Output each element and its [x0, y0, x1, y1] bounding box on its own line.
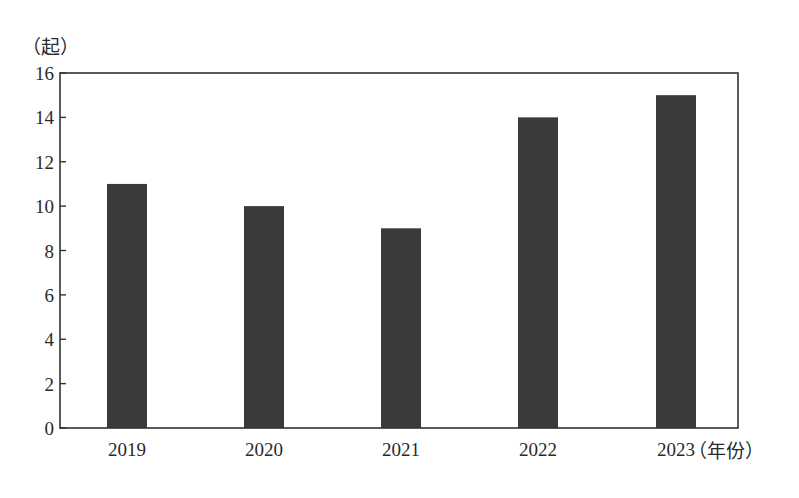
- y-tick-label: 10: [35, 196, 54, 217]
- bar-chart: 0246810121416 20192020202120222023 （起） （…: [0, 0, 799, 498]
- bars: [107, 95, 696, 428]
- x-tick-label: 2022: [519, 439, 557, 460]
- y-tick-label: 2: [45, 374, 55, 395]
- bar-2021: [381, 228, 421, 428]
- x-tick-label: 2020: [245, 439, 283, 460]
- x-axis-labels: 20192020202120222023: [108, 439, 695, 460]
- x-tick-label: 2021: [382, 439, 420, 460]
- y-axis-unit: （起）: [22, 37, 79, 58]
- y-tick-label: 4: [45, 329, 55, 350]
- y-tick-label: 8: [45, 241, 55, 262]
- bar-2019: [107, 184, 147, 428]
- y-tick-label: 16: [35, 63, 54, 84]
- x-tick-label: 2019: [108, 439, 146, 460]
- y-axis-ticks: 0246810121416: [35, 63, 66, 439]
- y-tick-label: 0: [45, 418, 55, 439]
- y-tick-label: 14: [35, 107, 55, 128]
- bar-2020: [244, 206, 284, 428]
- x-axis-unit: （年份）: [688, 441, 764, 462]
- bar-2023: [656, 95, 696, 428]
- bar-2022: [518, 117, 558, 428]
- y-tick-label: 12: [35, 152, 54, 173]
- y-tick-label: 6: [45, 285, 55, 306]
